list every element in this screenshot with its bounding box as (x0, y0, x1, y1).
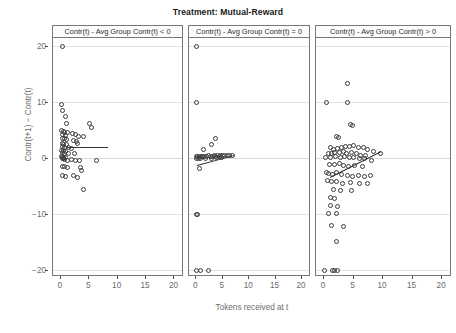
facet-strip-text: Contr(t) - Avg Group Contr(t) = 0 (196, 27, 302, 36)
data-point (79, 168, 84, 173)
data-point (59, 102, 64, 107)
data-point (75, 141, 80, 146)
gridline-y (189, 214, 309, 215)
x-axis-3: 05101520 (316, 276, 450, 302)
data-point (60, 108, 65, 113)
data-point (350, 174, 355, 179)
facet-panel-3: Contr(t) - Avg Group Contr(t) > 0 (315, 25, 451, 276)
y-axis: −20−1001020 (10, 0, 46, 333)
data-point (89, 125, 94, 130)
data-point (203, 156, 208, 161)
x-tick-mark (195, 276, 196, 279)
gridline-y (53, 46, 182, 47)
data-point (340, 181, 345, 186)
x-tick-mark (323, 276, 324, 279)
gridline-y (316, 102, 450, 103)
x-tick-mark (301, 276, 302, 279)
x-tick-label: 5 (343, 281, 363, 290)
x-tick-mark (248, 276, 249, 279)
plot-area-3 (315, 38, 451, 276)
facet-strip-label-3: Contr(t) - Avg Group Contr(t) > 0 (315, 25, 451, 38)
data-point (365, 147, 370, 152)
data-point (362, 174, 367, 179)
data-point (345, 173, 350, 178)
data-point (201, 147, 206, 152)
data-point (335, 268, 340, 273)
data-point (209, 142, 214, 147)
data-point (345, 100, 350, 105)
data-point (198, 156, 203, 161)
gridline-y (189, 102, 309, 103)
facet-strip-text: Contr(t) - Avg Group Contr(t) > 0 (330, 27, 436, 36)
data-point (334, 211, 339, 216)
data-point (323, 155, 328, 160)
data-point (63, 114, 68, 119)
gridline-y (53, 214, 182, 215)
data-point (332, 196, 337, 201)
gridline-y (316, 46, 450, 47)
data-point (64, 137, 69, 142)
data-point (350, 123, 355, 128)
data-point (328, 203, 333, 208)
plot-area-1 (52, 38, 183, 276)
y-tick-label: 0 (14, 154, 46, 163)
data-point (75, 175, 80, 180)
data-point (194, 100, 199, 105)
data-point (341, 224, 346, 229)
x-tick-label: 15 (135, 281, 155, 290)
data-point (349, 188, 354, 193)
gridline-y (53, 102, 182, 103)
x-axis-1: 05101520 (53, 276, 182, 302)
x-axis-label: Tokens received at t (52, 303, 452, 312)
data-point (198, 268, 203, 273)
plot-area-2 (188, 38, 310, 276)
data-point (77, 158, 82, 163)
x-tick-mark (275, 276, 276, 279)
x-tick-label: 5 (78, 281, 98, 290)
gridline-y (189, 46, 309, 47)
regression-line (66, 147, 108, 148)
data-point (197, 166, 202, 171)
data-point (81, 134, 86, 139)
x-tick-label: 20 (291, 281, 311, 290)
data-point (331, 187, 336, 192)
x-tick-mark (441, 276, 442, 279)
x-tick-label: 15 (402, 281, 422, 290)
x-tick-label: 0 (313, 281, 333, 290)
scatter-figure-panel: Treatment: Mutual-Reward Contr(t+1) − Co… (0, 0, 456, 333)
x-tick-mark (173, 276, 174, 279)
x-tick-label: 20 (431, 281, 451, 290)
data-point (336, 135, 341, 140)
x-tick-mark (88, 276, 89, 279)
data-point (206, 268, 211, 273)
facet-strip-text: Contr(t) - Avg Group Contr(t) < 0 (64, 27, 170, 36)
y-tick-label: −10 (14, 210, 46, 219)
data-point (348, 180, 353, 185)
y-tick-label: 20 (14, 42, 46, 51)
y-tick-label: 10 (14, 98, 46, 107)
data-point (213, 136, 218, 141)
x-tick-label: 5 (212, 281, 232, 290)
data-point (368, 173, 373, 178)
x-tick-label: 15 (265, 281, 285, 290)
data-point (356, 173, 361, 178)
data-point (195, 212, 200, 217)
facet-panel-1: Contr(t) - Avg Group Contr(t) < 0 (52, 25, 183, 276)
x-tick-mark (117, 276, 118, 279)
x-tick-mark (60, 276, 61, 279)
gridline-y (53, 270, 182, 271)
data-point (60, 44, 65, 49)
x-tick-label: 0 (185, 281, 205, 290)
data-point (322, 268, 327, 273)
data-point (345, 81, 350, 86)
data-point (94, 158, 99, 163)
data-point (369, 158, 374, 163)
x-tick-label: 10 (238, 281, 258, 290)
y-tick-mark (45, 270, 48, 271)
x-axis-2: 05101520 (189, 276, 309, 302)
data-point (365, 181, 370, 186)
x-tick-label: 20 (163, 281, 183, 290)
data-point (324, 100, 329, 105)
data-point (351, 155, 356, 160)
data-point (65, 165, 70, 170)
